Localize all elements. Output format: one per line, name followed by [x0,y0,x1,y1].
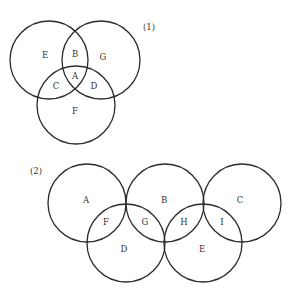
diagram-1-number: (1) [143,22,155,32]
region-label-c: C [53,81,60,91]
diagram-2: (2) ABCFGHIDE [30,164,281,282]
region-label-g: G [100,52,107,62]
diagram-2-number: (2) [30,166,42,176]
region-label-h: H [180,217,187,227]
diagram-1: (1) EBGACDF [10,21,155,144]
region-label-f: F [72,106,78,116]
region-label-e: E [42,50,48,60]
region-label-b: B [161,195,167,205]
region-label-i: I [220,217,223,227]
region-label-d: D [121,244,128,254]
region-label-d: D [91,81,98,91]
region-label-b: B [72,49,78,59]
venn-diagrams: (1) EBGACDF (2) ABCFGHIDE [0,0,297,297]
region-label-f: F [103,217,109,227]
region-label-c: C [237,195,244,205]
region-label-a: A [71,71,79,81]
region-label-e: E [199,244,205,254]
region-label-a: A [82,195,90,205]
diagram1-circle-left [10,21,88,99]
region-label-g: G [142,217,149,227]
